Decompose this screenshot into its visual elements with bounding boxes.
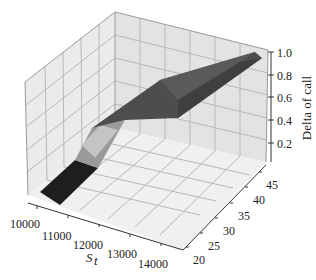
svg-text:35: 35 [238,209,250,223]
svg-text:0.8: 0.8 [277,69,292,83]
svg-text:S: S [86,250,93,265]
svg-text:0.6: 0.6 [277,91,292,105]
svg-text:30: 30 [223,224,235,238]
svg-text:t: t [94,253,98,268]
surface-plot-3d: 10000 11000 12000 13000 14000 S t 20 25 … [0,0,316,280]
svg-text:45: 45 [266,178,278,192]
svg-text:10000: 10000 [10,217,40,231]
svg-text:11000: 11000 [42,229,72,243]
z-tick-labels: 1.0 0.8 0.6 0.4 0.2 [277,46,292,151]
svg-text:0.2: 0.2 [277,137,292,151]
chart-container: 10000 11000 12000 13000 14000 S t 20 25 … [0,0,316,280]
svg-text:20: 20 [193,253,205,267]
svg-text:25: 25 [208,239,220,253]
svg-text:0.4: 0.4 [277,114,292,128]
svg-text:1.0: 1.0 [277,46,292,60]
x-axis-label: S t [86,250,98,268]
z-axis-label: Delta of call [299,75,314,140]
svg-text:13000: 13000 [107,247,137,261]
svg-text:14000: 14000 [138,257,168,271]
svg-text:40: 40 [253,193,265,207]
